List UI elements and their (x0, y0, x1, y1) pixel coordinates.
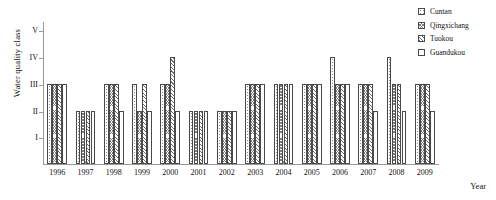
bar (232, 111, 237, 164)
x-tick-label: 2008 (389, 168, 405, 177)
bar (175, 111, 180, 164)
y-tick (39, 58, 44, 59)
bar (345, 84, 350, 164)
bar (204, 111, 209, 164)
y-tick-label: IV (30, 54, 38, 62)
legend-item[interactable]: Qingxichang (418, 19, 496, 33)
dotted-square-icon (418, 8, 425, 15)
bar (330, 57, 335, 164)
bar (147, 111, 152, 164)
diagonal-hatch-square-icon (418, 35, 425, 42)
x-tick-label: 1996 (49, 168, 65, 177)
y-tick (39, 31, 44, 32)
y-axis-title: Water quality class (12, 8, 22, 118)
legend-item[interactable]: Guandukou (418, 46, 496, 60)
chart-canvas: Water quality class IIIIIIIVV 1996199719… (0, 0, 496, 200)
x-tick-label: 2006 (332, 168, 348, 177)
blank-square-icon (418, 49, 425, 56)
bar-group (47, 22, 67, 164)
bar (104, 84, 109, 164)
bar-group (217, 22, 237, 164)
crosshatch-square-icon (418, 22, 425, 29)
legend-item-label: Tuokou (430, 34, 453, 43)
bar (402, 111, 407, 164)
bar (245, 84, 250, 164)
bar-group (160, 22, 180, 164)
bar (76, 111, 81, 164)
bar (132, 84, 137, 164)
bar (217, 111, 222, 164)
bar-group (387, 22, 407, 164)
bar (170, 57, 175, 164)
bar (255, 84, 260, 164)
bar (199, 111, 204, 164)
bar (114, 84, 119, 164)
bar-group (132, 22, 152, 164)
legend: CuntanQingxichangTuokouGuandukou (418, 5, 496, 59)
y-tick-label: III (30, 81, 38, 89)
bar (260, 84, 265, 164)
legend-item-label: Qingxichang (430, 21, 469, 30)
bar (222, 111, 227, 164)
bar (358, 84, 363, 164)
bar (137, 111, 142, 164)
x-tick-label: 2007 (360, 168, 376, 177)
legend-item[interactable]: Cuntan (418, 5, 496, 19)
bar (415, 84, 420, 164)
x-axis-title: Year (470, 181, 486, 191)
bar (194, 111, 199, 164)
legend-item[interactable]: Tuokou (418, 32, 496, 46)
legend-item-label: Cuntan (430, 7, 452, 16)
x-tick-label: 2009 (417, 168, 433, 177)
bar (368, 84, 373, 164)
bar (392, 84, 397, 164)
bar (165, 84, 170, 164)
bar-group (330, 22, 350, 164)
bar (250, 84, 255, 164)
bar (47, 84, 52, 164)
bar-group (104, 22, 124, 164)
x-axis-line (43, 164, 439, 165)
bar-group (76, 22, 96, 164)
bar (274, 84, 279, 164)
bar (387, 57, 392, 164)
bar-group (189, 22, 209, 164)
bar-group (274, 22, 294, 164)
x-tick-label: 1999 (134, 168, 150, 177)
bar (289, 84, 294, 164)
bar (279, 84, 284, 164)
y-tick-label: V (32, 27, 38, 35)
bar (91, 111, 96, 164)
bar (307, 84, 312, 164)
y-tick-label: I (35, 134, 38, 142)
bar (302, 84, 307, 164)
bar (81, 111, 86, 164)
x-tick-label: 2002 (219, 168, 235, 177)
y-tick (39, 138, 44, 139)
bar (52, 84, 57, 164)
bar (189, 111, 194, 164)
x-tick-label: 2000 (162, 168, 178, 177)
bar (227, 111, 232, 164)
bar (284, 84, 289, 164)
bar (373, 111, 378, 164)
bar-group (358, 22, 378, 164)
bar (397, 84, 402, 164)
x-tick-label: 2005 (304, 168, 320, 177)
y-tick (39, 85, 44, 86)
bar (57, 84, 62, 164)
y-tick (39, 112, 44, 113)
legend-item-label: Guandukou (430, 48, 465, 57)
bar (62, 84, 67, 164)
x-tick-label: 2003 (247, 168, 263, 177)
bar (430, 111, 435, 164)
bar-group (302, 22, 322, 164)
bar (420, 84, 425, 164)
bar (142, 84, 147, 164)
bar (363, 84, 368, 164)
x-tick-label: 2001 (191, 168, 207, 177)
bar (317, 84, 322, 164)
bar (119, 111, 124, 164)
bar (335, 84, 340, 164)
bar (160, 84, 165, 164)
